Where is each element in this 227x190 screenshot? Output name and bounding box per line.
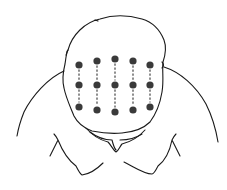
diagram-svg — [0, 0, 227, 190]
left-chest — [50, 134, 103, 175]
marker-dot — [111, 108, 118, 115]
marker-dot — [111, 81, 118, 88]
marker-dot — [129, 81, 136, 88]
marker-dot — [111, 55, 118, 62]
marker-dot — [146, 103, 153, 110]
marker-dot — [75, 81, 82, 88]
marker-dot — [93, 57, 100, 64]
head-diagram — [0, 0, 227, 190]
marker-dot — [129, 106, 136, 113]
marker-dot — [93, 106, 100, 113]
chin-outline — [90, 132, 142, 150]
marker-dot — [75, 103, 82, 110]
marker-dot — [75, 61, 82, 68]
left-shoulder — [17, 71, 64, 136]
marker-dot — [146, 61, 153, 68]
marker-dot — [146, 81, 153, 88]
right-shoulder — [164, 67, 218, 142]
marker-dot — [93, 81, 100, 88]
marker-dot — [129, 57, 136, 64]
